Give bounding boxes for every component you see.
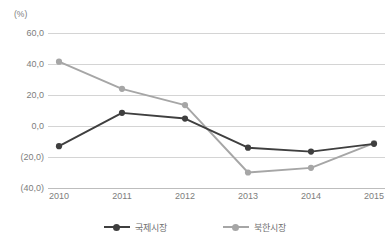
data-point (182, 115, 188, 121)
line-chart: (%) 60,040,020,00,0(20,0)(40,0) 20102011… (0, 0, 389, 242)
series-layer (48, 33, 385, 188)
data-point (119, 86, 125, 92)
data-point (308, 148, 314, 154)
y-axis-tick-label: (40,0) (0, 183, 44, 193)
x-axis-tick-label: 2013 (238, 191, 258, 201)
x-axis-tick-label: 2011 (112, 191, 131, 201)
legend-marker-north-korea (223, 222, 249, 232)
series-line (59, 113, 374, 152)
data-point (182, 102, 188, 108)
legend-label-north-korea: 북한시장 (254, 221, 286, 234)
x-axis-tick-label: 2014 (301, 191, 321, 201)
y-axis-tick-label: 40,0 (0, 59, 44, 69)
data-point (245, 169, 251, 175)
data-point (119, 110, 125, 116)
data-point (308, 165, 314, 171)
gridline (48, 188, 385, 189)
legend-item-international[interactable]: 국제시장 (104, 221, 167, 234)
x-axis-tick-label: 2015 (364, 191, 384, 201)
series-line (59, 62, 374, 173)
y-axis-tick-labels: 60,040,020,00,0(20,0)(40,0) (0, 0, 44, 242)
y-axis-tick-label: 20,0 (0, 90, 44, 100)
chart-legend: 국제시장 북한시장 (0, 216, 389, 238)
legend-item-north-korea[interactable]: 북한시장 (223, 221, 286, 234)
legend-marker-international (104, 222, 130, 232)
x-axis-tick-label: 2010 (49, 191, 69, 201)
legend-label-international: 국제시장 (135, 221, 167, 234)
data-point (56, 143, 62, 149)
data-point (56, 59, 62, 65)
y-axis-tick-label: 60,0 (0, 28, 44, 38)
y-axis-tick-label: (20,0) (0, 152, 44, 162)
y-axis-tick-label: 0,0 (0, 121, 44, 131)
data-point (371, 141, 377, 147)
x-axis-tick-labels: 201020112012201320142015 (48, 191, 385, 207)
plot-area (48, 33, 385, 188)
x-axis-tick-label: 2012 (175, 191, 195, 201)
data-point (245, 145, 251, 151)
